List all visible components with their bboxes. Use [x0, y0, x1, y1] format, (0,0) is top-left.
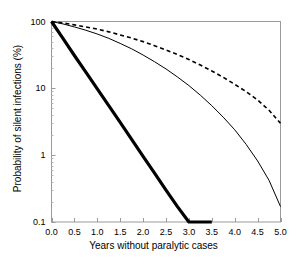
- y-tick-label: 10: [0, 84, 46, 93]
- y-tick-label: 1: [0, 151, 46, 160]
- x-tick-label: 2.5: [160, 228, 173, 237]
- x-tick-label: 4.0: [228, 228, 241, 237]
- x-tick-label: 1.0: [91, 228, 104, 237]
- x-tick-label: 0.0: [45, 228, 58, 237]
- x-axis-title: Years without paralytic cases: [0, 240, 307, 251]
- y-axis-title: Probability of silent infections (%): [12, 4, 23, 234]
- chart-figure: 1001010.1 0.00.51.01.52.02.53.03.54.04.5…: [0, 0, 307, 257]
- x-tick-label: 5.0: [274, 228, 287, 237]
- x-tick-label: 1.5: [114, 228, 127, 237]
- x-tick-label: 4.5: [251, 228, 264, 237]
- x-tick-label: 2.0: [137, 228, 150, 237]
- chart-plot-area: [0, 0, 307, 257]
- x-tick-label: 3.5: [206, 228, 219, 237]
- x-tick-label: 3.0: [183, 228, 196, 237]
- y-tick-label: 0.1: [0, 218, 46, 227]
- y-tick-label: 100: [0, 17, 46, 26]
- x-tick-label: 0.5: [68, 228, 81, 237]
